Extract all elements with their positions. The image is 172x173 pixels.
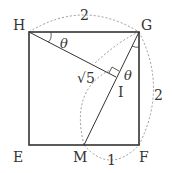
label-right-length: 2 xyxy=(154,87,163,103)
label-h: H xyxy=(13,17,25,33)
label-top-length: 2 xyxy=(80,7,89,23)
geometry-diagram: H G E F M I 2 2 1 √5 θ θ xyxy=(0,0,172,173)
label-hypotenuse: √5 xyxy=(77,70,95,86)
label-e: E xyxy=(13,149,23,165)
label-bottom-length: 1 xyxy=(107,152,116,168)
arc-inner xyxy=(95,32,139,63)
right-angle-mark xyxy=(109,67,119,73)
label-g: G xyxy=(141,17,152,33)
angle-arc-h xyxy=(48,32,51,42)
arc-gf xyxy=(139,32,154,145)
label-theta-h: θ xyxy=(60,36,68,51)
label-f: F xyxy=(139,149,149,165)
angle-arc-g xyxy=(132,46,139,47)
label-m: M xyxy=(73,149,87,165)
segment-hi xyxy=(29,32,116,77)
label-theta-g: θ xyxy=(124,68,132,83)
label-i: I xyxy=(118,84,124,100)
